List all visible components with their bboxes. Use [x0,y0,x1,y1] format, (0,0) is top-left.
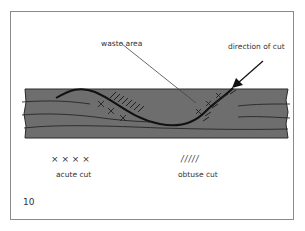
legend-acute-symbol: × × × × [51,154,90,164]
board [24,89,288,138]
waste-area-label: waste area [101,39,142,48]
legend-obtuse-symbol: ///// [180,155,200,164]
legend-obtuse-label: obtuse cut [178,170,218,179]
diagram: waste area direction of cut × × × × acut… [0,0,305,231]
legend-acute-label: acute cut [56,170,91,179]
direction-arrow [232,61,263,88]
figure-number: 10 [23,197,35,207]
direction-of-cut-label: direction of cut [228,42,285,51]
